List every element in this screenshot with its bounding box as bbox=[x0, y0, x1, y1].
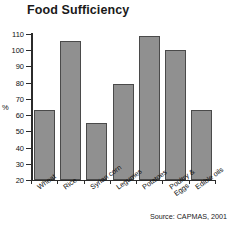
y-axis-tick-label: 90 bbox=[2, 62, 24, 71]
bar bbox=[139, 36, 160, 180]
x-axis-tick bbox=[136, 180, 137, 184]
y-axis-tick-label: 30 bbox=[2, 160, 24, 169]
y-axis-tick-label: 100 bbox=[2, 46, 24, 55]
y-axis-title: % bbox=[2, 103, 9, 112]
x-axis-tick bbox=[57, 180, 58, 184]
y-axis-tick bbox=[26, 83, 31, 84]
y-axis-tick-label: 50 bbox=[2, 127, 24, 136]
x-axis-tick bbox=[162, 180, 163, 184]
y-axis-tick bbox=[26, 164, 31, 165]
bar bbox=[165, 50, 186, 180]
chart-container: Food Sufficiency 2030405060708090100110 … bbox=[0, 0, 235, 233]
chart-title: Food Sufficiency bbox=[27, 3, 129, 17]
y-axis-tick-label: 80 bbox=[2, 79, 24, 88]
y-axis-tick-label: 40 bbox=[2, 144, 24, 153]
y-axis-tick bbox=[26, 148, 31, 149]
x-axis-tick bbox=[215, 180, 216, 184]
bar bbox=[191, 110, 212, 180]
bar bbox=[34, 110, 55, 180]
x-axis-tick bbox=[84, 180, 85, 184]
bar bbox=[60, 41, 81, 181]
plot-area bbox=[31, 34, 215, 180]
y-axis-tick-label: 60 bbox=[2, 111, 24, 120]
y-axis-tick bbox=[26, 66, 31, 67]
y-axis-tick bbox=[26, 115, 31, 116]
y-axis-tick bbox=[26, 131, 31, 132]
y-axis-tick bbox=[26, 99, 31, 100]
y-axis-tick bbox=[26, 50, 31, 51]
source-note: Source: CAPMAS, 2001 bbox=[150, 212, 227, 221]
y-axis-tick-label: 20 bbox=[2, 176, 24, 185]
x-axis-tick bbox=[31, 180, 32, 184]
x-axis-tick bbox=[189, 180, 190, 184]
y-axis-labels: 2030405060708090100110 bbox=[0, 0, 24, 233]
y-axis-tick-label: 110 bbox=[2, 30, 24, 39]
y-axis-tick bbox=[26, 34, 31, 35]
x-axis-tick bbox=[110, 180, 111, 184]
